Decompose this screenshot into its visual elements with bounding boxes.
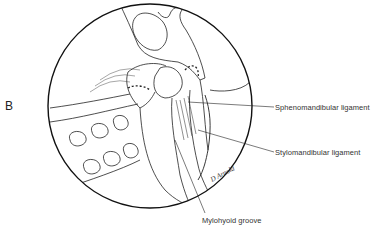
label-mylohyoid-groove: Mylohyoid groove [202,216,262,225]
anatomical-illustration: D Arnold [0,0,383,233]
leader-line-mylohyoid [175,140,205,213]
artist-signature: D Arnold [208,164,236,184]
leader-line-sphenomandibular [188,102,274,107]
label-stylomandibular-ligament: Stylomandibular ligament [275,148,360,157]
label-sphenomandibular-ligament: Sphenomandibular ligament [275,103,370,112]
